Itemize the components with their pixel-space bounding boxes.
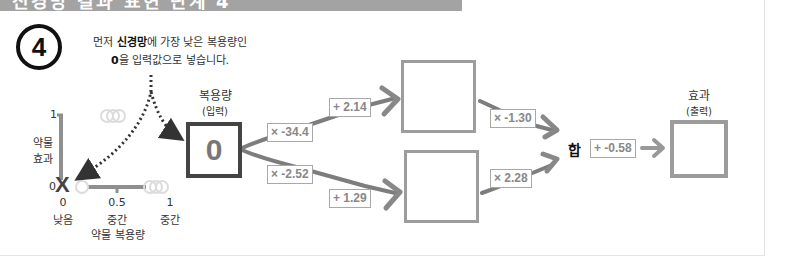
left-graph-axes xyxy=(57,115,146,193)
sum-label: 합 xyxy=(568,139,581,159)
weight-bottom-input: × -2.52 xyxy=(267,165,313,184)
output-node-box xyxy=(670,120,728,178)
input-subtitle: (입력) xyxy=(188,103,242,118)
weight-top-input: × -34.4 xyxy=(267,123,313,142)
dotted-arrows xyxy=(82,75,177,176)
faint-data-points xyxy=(76,110,168,193)
output-title: 효과 xyxy=(672,86,726,103)
input-title: 복용량 xyxy=(188,86,242,103)
weight-bottom-output: × 2.28 xyxy=(490,169,532,188)
y-tick-top: 1 xyxy=(50,108,57,121)
y-axis-label-line2: 효과 xyxy=(31,150,55,166)
x-tick-1: 1 xyxy=(163,196,177,209)
output-subtitle: (출력) xyxy=(672,103,726,118)
x-tick-label-high: 중간 xyxy=(157,211,183,227)
x-tick-0-5: 0.5 xyxy=(104,196,130,209)
input-connections xyxy=(242,99,395,193)
arrowheads-into-sum xyxy=(543,117,557,171)
bias-bottom: + 1.29 xyxy=(329,189,371,208)
activation-box-bottom xyxy=(404,150,479,223)
activation-box-top xyxy=(401,60,476,133)
y-axis-label-line1: 약물 xyxy=(31,134,55,150)
x-tick-label-low: 낮음 xyxy=(50,211,76,227)
x-tick-0: 0 xyxy=(56,196,70,209)
bias-top: + 2.14 xyxy=(329,98,371,117)
x-tick-label-mid: 중간 xyxy=(104,211,130,227)
final-bias: + -0.58 xyxy=(590,139,636,158)
arrow-to-output xyxy=(642,140,663,156)
input-node-box: 0 xyxy=(186,122,242,178)
weight-top-output: × -1.30 xyxy=(490,109,536,128)
x-marker-icon: X xyxy=(55,172,70,198)
x-axis-label: 약물 복용량 xyxy=(85,226,151,242)
